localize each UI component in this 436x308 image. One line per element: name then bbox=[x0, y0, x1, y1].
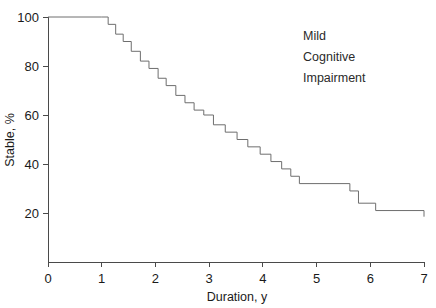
y-tick-label-80: 80 bbox=[25, 59, 39, 74]
group-annotation: Mild Cognitive Impairment bbox=[303, 29, 366, 85]
y-tick-label-40: 40 bbox=[25, 157, 39, 172]
chart-container: 2040608010001234567 Duration, y Stable, … bbox=[0, 0, 436, 308]
annotation-line-3: Impairment bbox=[303, 71, 366, 85]
y-tick-label-100: 100 bbox=[17, 10, 39, 25]
x-tick-label-4: 4 bbox=[259, 271, 266, 286]
y-axis-title: Stable, % bbox=[3, 113, 17, 167]
x-tick-label-3: 3 bbox=[206, 271, 213, 286]
x-tick-label-0: 0 bbox=[44, 271, 51, 286]
x-axis-title: Duration, y bbox=[207, 290, 268, 304]
axis-tick-labels: 2040608010001234567 bbox=[17, 10, 427, 286]
annotation-line-1: Mild bbox=[303, 29, 326, 43]
axes bbox=[48, 17, 424, 262]
axis-ticks bbox=[43, 17, 424, 267]
x-tick-label-5: 5 bbox=[313, 271, 320, 286]
data-series bbox=[48, 17, 424, 217]
annotation-line-2: Cognitive bbox=[303, 50, 355, 64]
x-tick-label-7: 7 bbox=[420, 271, 427, 286]
y-tick-label-60: 60 bbox=[25, 108, 39, 123]
step-chart: 2040608010001234567 Duration, y Stable, … bbox=[0, 0, 436, 308]
x-tick-label-1: 1 bbox=[98, 271, 105, 286]
x-tick-label-2: 2 bbox=[152, 271, 159, 286]
y-tick-label-20: 20 bbox=[25, 206, 39, 221]
series-line-0 bbox=[48, 17, 424, 217]
x-tick-label-6: 6 bbox=[367, 271, 374, 286]
